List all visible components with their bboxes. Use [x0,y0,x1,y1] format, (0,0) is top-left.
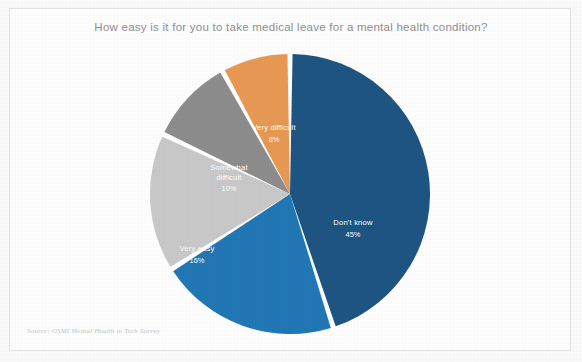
pie-slice-label: Very easy [179,244,214,253]
source-note: Source: OSMI Mental Health in Tech Surve… [27,327,160,335]
pie-slice-group [150,54,430,334]
pie-slice-label: Very difficult [252,123,296,132]
pie-chart-svg: Don't know45%Somewhat easy21%Very easy16… [141,52,439,335]
chart-title: How easy is it for you to take medical l… [0,21,582,33]
pie-chart: Don't know45%Somewhat easy21%Very easy16… [141,52,439,335]
pie-slice-percent: 45% [346,230,361,239]
slide-page: How easy is it for you to take medical l… [0,0,582,362]
pie-slice-percent: 16% [190,256,205,265]
pie-slice-label: Don't know [333,218,373,227]
pie-slice-percent: 8% [269,135,280,144]
pie-slice-percent: 10% [222,184,237,193]
